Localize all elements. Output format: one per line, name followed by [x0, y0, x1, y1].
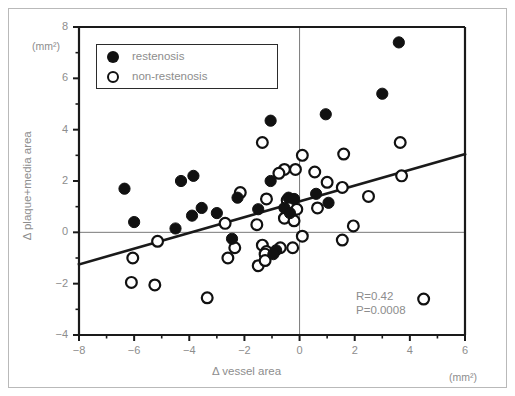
data-point-restenosis — [265, 175, 276, 186]
data-point-non-restenosis — [222, 253, 233, 264]
correlation-value: R=0.42 — [356, 290, 406, 304]
legend: restenosis non-restenosis — [96, 44, 278, 89]
x-tick-label: −4 — [169, 345, 209, 356]
data-point-restenosis — [323, 197, 334, 208]
data-point-restenosis — [175, 175, 186, 186]
y-axis-unit: (mm²) — [32, 41, 60, 52]
data-point-non-restenosis — [261, 194, 272, 205]
data-point-non-restenosis — [312, 203, 323, 214]
x-tick-label: 6 — [445, 345, 485, 356]
data-point-non-restenosis — [152, 236, 163, 247]
data-point-restenosis — [284, 207, 295, 218]
open-circle-icon — [107, 71, 119, 83]
data-point-non-restenosis — [322, 177, 333, 188]
statistics-annotation: R=0.42 P=0.0008 — [356, 290, 406, 317]
data-point-restenosis — [393, 37, 404, 48]
data-point-restenosis — [196, 202, 207, 213]
data-point-non-restenosis — [149, 280, 160, 291]
y-axis-title: Δ plaque+media area — [22, 116, 34, 256]
legend-item-restenosis: restenosis — [107, 47, 184, 67]
legend-item-non-restenosis: non-restenosis — [107, 67, 207, 87]
data-point-non-restenosis — [337, 235, 348, 246]
data-point-non-restenosis — [127, 253, 138, 264]
data-point-non-restenosis — [396, 170, 407, 181]
data-point-restenosis — [268, 249, 279, 260]
data-point-non-restenosis — [418, 294, 429, 305]
data-point-non-restenosis — [363, 191, 374, 202]
x-axis-unit: (mm²) — [449, 372, 477, 383]
data-point-restenosis — [129, 216, 140, 227]
y-tick-label: 6 — [0, 72, 68, 83]
y-tick-label: −2 — [0, 278, 68, 289]
data-point-non-restenosis — [297, 231, 308, 242]
x-tick-label: −2 — [224, 345, 264, 356]
data-point-restenosis — [170, 223, 181, 234]
data-point-restenosis — [226, 233, 237, 244]
data-point-restenosis — [377, 88, 388, 99]
data-point-non-restenosis — [202, 292, 213, 303]
data-point-non-restenosis — [337, 182, 348, 193]
data-point-non-restenosis — [290, 164, 301, 175]
y-tick-label: 0 — [0, 226, 68, 237]
legend-label: restenosis — [132, 51, 184, 63]
y-tick-label: 4 — [0, 124, 68, 135]
data-point-non-restenosis — [348, 221, 359, 232]
pvalue: P=0.0008 — [356, 304, 406, 318]
x-tick-label: −6 — [114, 345, 154, 356]
data-point-restenosis — [288, 193, 299, 204]
data-point-non-restenosis — [257, 137, 268, 148]
data-point-restenosis — [119, 183, 130, 194]
x-tick-label: 2 — [335, 345, 375, 356]
data-point-restenosis — [211, 207, 222, 218]
data-point-restenosis — [232, 192, 243, 203]
scatter-plot-figure: −4 −2 0 2 4 6 8 −8 −6 −4 −2 0 2 4 6 (mm²… — [0, 0, 515, 396]
x-axis-title: Δ vessel area — [212, 366, 281, 378]
data-point-restenosis — [186, 210, 197, 221]
data-point-non-restenosis — [338, 149, 349, 160]
x-tick-label: −8 — [59, 345, 99, 356]
y-tick-label: 2 — [0, 175, 68, 186]
y-tick-label: 8 — [0, 21, 68, 32]
data-point-non-restenosis — [309, 167, 320, 178]
x-tick-label: 0 — [280, 345, 320, 356]
data-point-restenosis — [188, 170, 199, 181]
data-point-non-restenosis — [251, 219, 262, 230]
data-point-non-restenosis — [395, 137, 406, 148]
data-point-non-restenosis — [297, 150, 308, 161]
data-point-restenosis — [311, 188, 322, 199]
filled-circle-icon — [107, 51, 119, 63]
data-point-restenosis — [320, 109, 331, 120]
data-point-non-restenosis — [220, 218, 231, 229]
data-point-non-restenosis — [126, 277, 137, 288]
legend-label: non-restenosis — [132, 71, 207, 83]
data-point-restenosis — [253, 204, 264, 215]
data-point-restenosis — [265, 115, 276, 126]
x-tick-label: 4 — [390, 345, 430, 356]
data-point-non-restenosis — [287, 242, 298, 253]
y-tick-label: −4 — [0, 329, 68, 340]
